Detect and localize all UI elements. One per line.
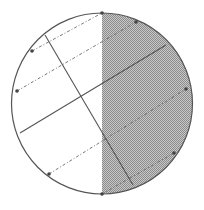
point-p-right: [184, 87, 188, 91]
diagram-stage: [0, 0, 204, 210]
point-p-top: [100, 11, 104, 15]
point-p-bottom-left: [47, 172, 51, 176]
point-p-bottom: [100, 192, 104, 196]
dashed-chord-dash-1: [32, 13, 102, 51]
point-p-left-upper: [30, 49, 34, 53]
point-p-right-lower: [172, 151, 176, 155]
circle-diagram: [0, 0, 204, 210]
point-p-top-right: [134, 20, 138, 24]
point-p-left: [15, 89, 19, 93]
